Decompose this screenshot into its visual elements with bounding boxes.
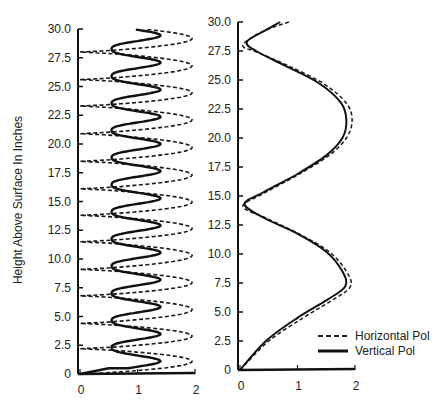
y-tick-label: 7.5 bbox=[54, 281, 71, 295]
y-tick-label: 12.5 bbox=[48, 223, 72, 237]
y-tick-label: 7.5 bbox=[214, 276, 231, 290]
y-tick-label: 2.5 bbox=[54, 338, 71, 352]
y-tick-label: 20.0 bbox=[48, 137, 72, 151]
x-tick-label: 0 bbox=[78, 383, 85, 397]
y-tick-label: 27.5 bbox=[48, 51, 72, 65]
y-tick-label: 17.5 bbox=[48, 166, 72, 180]
x-tick-label: 1 bbox=[135, 383, 142, 397]
y-tick-label: 27.5 bbox=[208, 44, 232, 58]
y-tick-label: 22.5 bbox=[208, 102, 232, 116]
y-tick-label: 25.0 bbox=[208, 73, 232, 87]
left-panel: 02.55.07.510.012.515.017.520.022.525.027… bbox=[48, 22, 200, 397]
y-tick-label: 10.0 bbox=[48, 252, 72, 266]
y-tick-label: 20.0 bbox=[208, 131, 232, 145]
y-tick-label: 30.0 bbox=[208, 15, 232, 29]
y-tick-label: 15.0 bbox=[48, 195, 72, 209]
x-tick-label: 2 bbox=[193, 383, 200, 397]
series-horizontal-pol bbox=[80, 30, 192, 375]
y-axis-title: Height Above Surface In Inches bbox=[11, 116, 25, 284]
y-tick-label: 17.5 bbox=[208, 160, 232, 174]
x-tick-label: 1 bbox=[295, 379, 302, 393]
y-tick-label: 0 bbox=[64, 367, 71, 381]
legend-vertical-pol: Vertical Pol bbox=[355, 344, 415, 358]
series-vertical-pol bbox=[240, 22, 346, 370]
legend-horizontal-pol: Horizontal Pol bbox=[355, 329, 430, 343]
y-tick-label: 5.0 bbox=[214, 305, 231, 319]
y-tick-label: 30.0 bbox=[48, 22, 72, 36]
y-tick-label: 15.0 bbox=[208, 189, 232, 203]
legend: Horizontal Pol Vertical Pol bbox=[318, 329, 430, 358]
y-tick-label: 2.5 bbox=[214, 334, 231, 348]
y-tick-label: 12.5 bbox=[208, 218, 232, 232]
x-axis-line bbox=[238, 369, 355, 370]
series-vertical-pol bbox=[80, 30, 161, 374]
y-tick-label: 10.0 bbox=[208, 247, 232, 261]
x-tick-label: 0 bbox=[238, 379, 245, 393]
y-tick-label: 5.0 bbox=[54, 310, 71, 324]
y-tick-label: 25.0 bbox=[48, 80, 72, 94]
y-tick-label: 22.5 bbox=[48, 108, 72, 122]
y-tick-label: 0 bbox=[224, 363, 231, 377]
antenna-height-pattern-chart: Height Above Surface In Inches 02.55.07.… bbox=[0, 0, 443, 411]
x-tick-label: 2 bbox=[353, 379, 360, 393]
